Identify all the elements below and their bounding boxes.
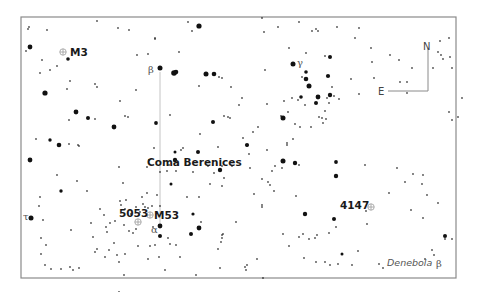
star <box>252 131 254 133</box>
star <box>174 151 177 154</box>
star <box>25 50 27 52</box>
star <box>136 54 138 56</box>
star <box>156 194 158 196</box>
star <box>461 97 463 99</box>
star <box>324 55 326 57</box>
star <box>287 111 289 113</box>
star <box>35 138 37 140</box>
star <box>40 237 42 239</box>
star <box>116 254 118 256</box>
star <box>444 238 446 240</box>
star <box>357 250 359 252</box>
greek-label-gamma-com: γ <box>297 57 303 68</box>
star <box>78 267 80 269</box>
star <box>42 90 47 95</box>
star <box>443 234 447 238</box>
star <box>334 174 338 178</box>
star <box>74 110 79 115</box>
star <box>49 69 51 71</box>
star <box>297 99 299 101</box>
star <box>96 86 98 88</box>
object-label-m3: M3 <box>70 46 88 58</box>
star <box>422 217 424 219</box>
star <box>358 93 360 95</box>
star <box>196 23 201 28</box>
star <box>178 51 180 53</box>
star <box>245 143 249 147</box>
star <box>256 258 258 260</box>
star <box>191 212 194 215</box>
star <box>197 226 202 231</box>
star <box>266 103 268 105</box>
star <box>147 258 149 260</box>
star <box>68 143 70 145</box>
star <box>175 170 177 172</box>
star <box>114 220 116 222</box>
star <box>195 274 197 276</box>
star <box>451 238 453 240</box>
star <box>158 256 160 258</box>
star <box>245 269 247 271</box>
star <box>112 125 117 130</box>
star <box>28 26 30 28</box>
star <box>218 76 220 78</box>
constellation-label: Coma Berenices <box>147 156 242 168</box>
star <box>421 183 423 185</box>
star <box>103 214 105 216</box>
star <box>117 27 119 29</box>
star <box>220 241 222 243</box>
star <box>200 221 202 223</box>
star <box>153 147 155 149</box>
star <box>78 145 80 147</box>
star <box>261 204 263 206</box>
star <box>28 45 33 50</box>
star <box>39 72 41 74</box>
star <box>137 245 139 247</box>
star <box>303 257 305 259</box>
star <box>154 244 156 246</box>
star <box>41 59 43 61</box>
star <box>302 233 304 235</box>
star <box>128 230 130 232</box>
star <box>440 54 442 56</box>
star <box>127 116 129 118</box>
star <box>249 167 251 169</box>
star <box>325 118 327 120</box>
star <box>94 83 96 85</box>
star <box>274 165 276 167</box>
star <box>221 234 223 236</box>
star <box>169 243 171 245</box>
star-name-denebola: Denebola <box>387 257 433 268</box>
north-label: N <box>423 41 430 52</box>
star <box>211 120 215 124</box>
star <box>351 264 353 266</box>
star <box>324 110 326 112</box>
star <box>426 194 428 196</box>
star <box>382 267 384 269</box>
star <box>96 20 98 22</box>
star <box>169 114 171 116</box>
star <box>293 161 297 165</box>
star <box>295 195 297 197</box>
star <box>66 88 68 90</box>
star <box>69 266 71 268</box>
star <box>204 72 209 77</box>
star <box>328 55 332 59</box>
star <box>311 30 313 32</box>
star <box>227 116 229 118</box>
greek-label-tau-boo: τ <box>23 211 29 222</box>
star <box>219 267 221 269</box>
star <box>326 97 328 99</box>
star <box>159 205 161 207</box>
star <box>354 37 356 39</box>
star <box>142 203 144 205</box>
star <box>132 232 134 234</box>
star <box>389 54 391 56</box>
star <box>86 190 88 192</box>
compass-arms <box>388 48 428 91</box>
star <box>314 101 318 105</box>
star <box>294 123 296 125</box>
greek-label-beta-com: β <box>148 64 154 75</box>
star <box>291 97 293 99</box>
star <box>182 147 184 149</box>
